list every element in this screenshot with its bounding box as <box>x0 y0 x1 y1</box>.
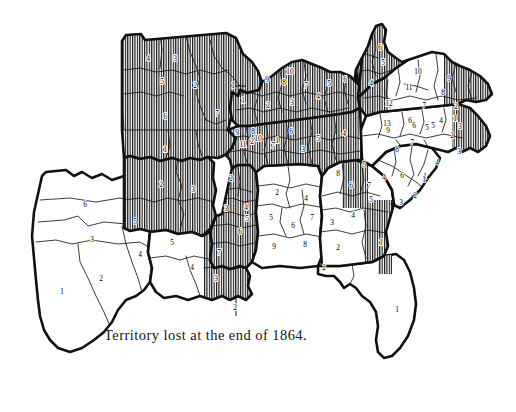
district-number-la-3: 3 <box>214 274 218 283</box>
district-number-tx-3: 3 <box>90 235 94 244</box>
district-number-tn-10: 10 <box>254 134 262 143</box>
district-number-ms-6: 6 <box>238 227 242 236</box>
district-number-la-5: 5 <box>170 238 174 247</box>
district-number-wv-6: 6 <box>378 43 382 52</box>
district-number-al-4: 4 <box>304 194 308 203</box>
district-number-ga-3: 3 <box>330 218 334 227</box>
district-number-wv-4: 4 <box>369 79 373 88</box>
district-number-ky-5: 5 <box>327 79 331 88</box>
district-number-ky-8: 8 <box>282 78 286 87</box>
district-number-ky-4: 4 <box>316 92 320 101</box>
district-number-va-9: 9 <box>447 74 451 83</box>
florida-outline <box>318 254 416 358</box>
district-number-tn-9: 9 <box>235 128 239 137</box>
district-number-ar-1: 1 <box>163 145 167 154</box>
arkansas-outline <box>124 156 216 236</box>
district-number-ky-3: 3 <box>290 98 294 107</box>
district-number-tx-5: 5 <box>133 217 137 226</box>
district-number-nc-4: 4 <box>435 158 439 167</box>
map-caption: Territory lost at the end of 1864. <box>104 327 307 344</box>
district-number-ms-2: 2 <box>229 174 233 183</box>
district-number-va-4: 4 <box>439 116 443 125</box>
district-number-va-11: 11 <box>405 83 412 92</box>
district-number-ky-6: 6 <box>343 75 347 84</box>
district-number-mo-1: 1 <box>231 81 235 90</box>
district-number-ga-8: 8 <box>336 169 340 178</box>
district-number-ms-5: 5 <box>245 214 249 223</box>
district-number-sc-3: 3 <box>399 198 403 207</box>
district-number-sc-5: 5 <box>362 160 366 169</box>
district-number-fl-2: 2 <box>322 263 326 272</box>
district-number-al-6: 6 <box>291 221 295 230</box>
district-number-va-13: 13 <box>383 119 391 128</box>
historical-map-figure: 1234561234567123234523456724567891212345… <box>0 0 516 412</box>
district-number-mo-6: 6 <box>163 112 167 121</box>
district-number-ga-4: 4 <box>351 211 355 220</box>
district-number-nc-6: 6 <box>412 121 416 130</box>
district-number-wv-5: 5 <box>381 58 385 67</box>
district-number-mo-7: 7 <box>215 109 219 118</box>
district-number-ar-3: 3 <box>191 185 195 194</box>
district-number-tn-11: 11 <box>239 140 246 149</box>
district-number-ga-6: 6 <box>349 181 353 190</box>
district-number-ms-4: 4 <box>244 203 248 212</box>
district-number-ar-2: 2 <box>159 180 163 189</box>
district-number-sc-6: 6 <box>400 171 404 180</box>
district-number-va-6: 6 <box>408 116 412 125</box>
district-number-va-1: 1 <box>453 114 457 123</box>
district-number-mo-2: 2 <box>193 81 197 90</box>
district-number-nc-5: 5 <box>431 121 435 130</box>
district-number-la-4: 4 <box>190 263 194 272</box>
district-number-va-10: 10 <box>414 67 422 76</box>
district-number-tn-4: 4 <box>342 129 346 138</box>
district-number-al-9: 9 <box>272 242 276 251</box>
district-number-ga-7: 7 <box>367 181 371 190</box>
district-number-tx-2: 2 <box>99 274 103 283</box>
district-number-tn-3: 3 <box>301 145 305 154</box>
district-number-ky-10: 10 <box>286 67 294 76</box>
district-number-la-2: 2 <box>233 303 237 312</box>
district-number-mo-5: 5 <box>160 77 164 86</box>
district-number-al-8: 8 <box>303 240 307 249</box>
district-number-va-8: 8 <box>441 88 445 97</box>
district-number-al-5: 5 <box>269 213 273 222</box>
district-number-tn-7: 7 <box>271 141 275 150</box>
district-number-tx-6: 6 <box>83 200 87 209</box>
district-number-ky-9: 9 <box>265 75 269 84</box>
district-number-tn-1: 1 <box>275 136 279 145</box>
district-number-al-2: 2 <box>275 188 279 197</box>
state-florida <box>318 254 416 358</box>
district-number-nc-2: 2 <box>450 131 454 140</box>
district-number-tx-1: 1 <box>60 287 64 296</box>
district-number-sc-2: 2 <box>413 191 417 200</box>
map-canvas: 1234561234567123234523456724567891212345… <box>0 0 516 412</box>
district-number-ky-7: 7 <box>304 81 308 90</box>
district-number-ga-2: 2 <box>336 243 340 252</box>
district-number-nc-3: 3 <box>457 147 461 156</box>
district-number-ky-2: 2 <box>266 101 270 110</box>
district-number-ga-1: 1 <box>379 238 383 247</box>
district-number-al-7: 7 <box>310 213 314 222</box>
district-number-tn-5: 5 <box>316 134 320 143</box>
district-number-ms-7: 7 <box>217 248 221 257</box>
district-number-ky-1: 1 <box>241 96 245 105</box>
district-number-va-12: 12 <box>385 99 393 108</box>
district-number-ms-3: 3 <box>224 204 228 213</box>
district-number-tn-6: 6 <box>289 127 293 136</box>
district-number-nc-8: 8 <box>395 145 399 154</box>
district-number-fl-1: 1 <box>395 305 399 314</box>
district-number-va-7: 7 <box>422 101 426 110</box>
state-bodies <box>32 24 496 358</box>
district-number-nc-1: 1 <box>422 175 426 184</box>
district-number-va-3: 3 <box>458 122 462 131</box>
district-number-ga-5: 5 <box>369 195 373 204</box>
district-number-tx-4: 4 <box>138 250 142 259</box>
district-number-va-5: 5 <box>425 123 429 132</box>
district-number-sc-4: 4 <box>382 173 386 182</box>
state-arkansas <box>124 156 216 236</box>
district-number-va-2: 2 <box>454 102 458 111</box>
district-number-mo-4: 4 <box>146 54 150 63</box>
district-number-mo-3: 3 <box>173 54 177 63</box>
district-number-nc-7: 7 <box>410 138 414 147</box>
